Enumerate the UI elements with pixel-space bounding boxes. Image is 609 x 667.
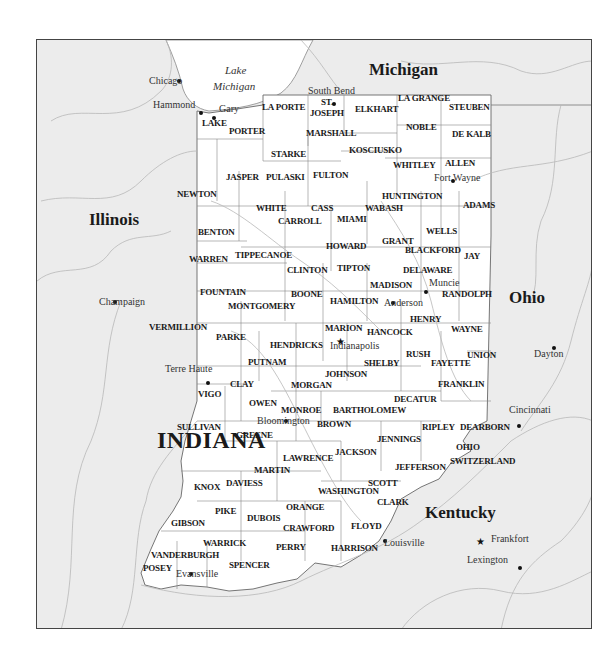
county-label: SHELBY (364, 359, 399, 368)
county-label: WABASH (365, 204, 403, 213)
county-label: STEUBEN (449, 103, 490, 112)
county-label: JOHNSON (325, 370, 367, 379)
county-label: RUSH (406, 350, 430, 359)
county-label: LA GRANGE (398, 94, 450, 103)
county-label: HENRY (410, 315, 441, 324)
county-label: HENDRICKS (270, 341, 323, 350)
state-label: Kentucky (425, 504, 496, 521)
county-label: MIAMI (337, 215, 367, 224)
county-label: NEWTON (177, 190, 217, 199)
county-label: MADISON (370, 281, 412, 290)
county-label: CARROLL (278, 217, 322, 226)
county-label: KNOX (194, 483, 220, 492)
county-label: JASPER (226, 173, 259, 182)
county-label: GIBSON (171, 519, 205, 528)
county-label: BROWN (317, 420, 351, 429)
county-label: KOSCIUSKO (349, 146, 402, 155)
map-frame: LakeMichiganMichiganIllinoisOhioKentucky… (36, 39, 592, 629)
city-label: Anderson (384, 298, 423, 308)
county-label: HANCOCK (367, 328, 413, 337)
county-label: STARKE (271, 150, 306, 159)
city-label: Gary (219, 104, 239, 114)
county-label: TIPPECANOE (235, 251, 292, 260)
county-label: FOUNTAIN (200, 288, 246, 297)
city-dot-icon (424, 290, 428, 294)
county-label: FULTON (313, 171, 348, 180)
city-label: Dayton (534, 349, 563, 359)
county-label: ADAMS (463, 201, 495, 210)
county-label: WHITE (256, 204, 287, 213)
county-label: FRANKLIN (438, 380, 484, 389)
city-label: Evansville (176, 569, 218, 579)
county-label: DEARBORN (460, 423, 510, 432)
county-label: VIGO (198, 390, 221, 399)
city-label: South Bend (308, 86, 355, 96)
city-label: Hammond (153, 100, 195, 110)
county-label: JOSEPH (310, 109, 344, 118)
city-dot-icon (199, 111, 203, 115)
county-label: MORGAN (291, 381, 332, 390)
county-label: JEFFERSON (395, 463, 446, 472)
county-label: LA PORTE (262, 103, 305, 112)
star-icon: ★ (476, 537, 485, 547)
county-label: HUNTINGTON (382, 192, 442, 201)
county-label: MONROE (281, 406, 321, 415)
county-label: RANDOLPH (442, 290, 492, 299)
county-label: DUBOIS (247, 514, 280, 523)
county-label: BARTHOLOMEW (333, 406, 406, 415)
city-dot-icon (332, 102, 336, 106)
county-label: HARRISON (331, 544, 378, 553)
city-label: Louisville (384, 538, 425, 548)
city-dot-icon (212, 116, 216, 120)
county-label: PORTER (229, 127, 265, 136)
county-label: POSEY (143, 564, 172, 573)
county-label: WAYNE (451, 325, 483, 334)
county-label: DELAWARE (403, 266, 452, 275)
county-label: WHITLEY (393, 161, 436, 170)
county-label: CLARK (377, 498, 409, 507)
county-label: UNION (467, 351, 496, 360)
city-label: Bloomington (257, 416, 310, 426)
county-label: CRAWFORD (283, 524, 334, 533)
county-label: GREENE (236, 431, 273, 440)
city-label: Lexington (467, 555, 508, 565)
county-label: WASHINGTON (318, 487, 379, 496)
county-label: HOWARD (326, 242, 366, 251)
county-label: BENTON (198, 228, 235, 237)
county-label: PERRY (276, 543, 306, 552)
county-label: FLOYD (351, 522, 382, 531)
county-label: JENNINGS (377, 435, 421, 444)
city-label: Fort Wayne (434, 173, 481, 183)
county-label: WARREN (189, 255, 228, 264)
city-dot-icon (518, 566, 522, 570)
county-label: LAKE (202, 119, 227, 128)
city-dot-icon (206, 381, 210, 385)
county-label: PARKE (216, 333, 246, 342)
county-label: TIPTON (337, 264, 370, 273)
county-label: MARSHALL (306, 129, 356, 138)
county-label: BLACKFORD (405, 246, 461, 255)
city-label: Cincinnati (509, 405, 551, 415)
county-label: PUTNAM (248, 358, 286, 367)
county-label: ALLEN (445, 159, 475, 168)
county-label: BOONE (291, 290, 323, 299)
state-label: Ohio (509, 289, 545, 306)
county-label: FAYETTE (431, 359, 471, 368)
county-label: ELKHART (355, 105, 398, 114)
city-label: Indianapolis (330, 341, 379, 351)
city-label: Muncie (429, 278, 460, 288)
county-label: OHIO (456, 443, 480, 452)
county-label: ORANGE (286, 503, 324, 512)
county-label: MARION (325, 324, 362, 333)
county-label: CLAY (230, 380, 254, 389)
city-dot-icon (517, 424, 521, 428)
county-label: VANDERBURGH (151, 551, 219, 560)
lake-label: Lake (225, 65, 246, 76)
county-label: DAVIESS (226, 479, 262, 488)
county-label: HAMILTON (330, 297, 378, 306)
county-label: MONTGOMERY (228, 302, 295, 311)
county-label: MARTIN (254, 466, 290, 475)
county-label: WELLS (426, 227, 457, 236)
county-label: DECATUR (394, 395, 436, 404)
county-label: JAY (464, 252, 480, 261)
